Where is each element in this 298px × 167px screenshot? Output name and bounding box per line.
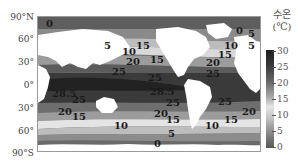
contour-label: 20 (126, 57, 140, 67)
temperature-bands (38, 17, 261, 152)
contour-label: 0 (154, 139, 161, 149)
y-axis-label-60s: 60° (0, 126, 34, 136)
legend-title-label: 수온 (268, 9, 296, 21)
y-axis-label-equator: 0° (0, 80, 34, 90)
legend-tickmark (272, 147, 276, 148)
legend-tick-25: 25 (277, 63, 288, 72)
legend-tick-5: 5 (277, 127, 283, 136)
legend-tickmark (272, 99, 276, 100)
contour-label: 5 (248, 29, 255, 39)
contour-label: 25 (166, 98, 180, 108)
contour-label: 25 (112, 67, 126, 77)
legend-tick-15: 15 (277, 95, 288, 104)
contour-label: 25 (148, 73, 162, 83)
contour-label: 5 (248, 41, 255, 51)
contour-label: 25 (218, 97, 232, 107)
legend-tickmark (272, 131, 276, 132)
contour-label: 15 (72, 112, 86, 122)
contour-label: 15 (166, 115, 180, 125)
contour-label: 5 (104, 41, 111, 51)
contour-label: 20 (206, 58, 220, 68)
sst-map: 0 5 10 15 20 25 15 25 0 5 10 5 15 20 25 … (37, 16, 261, 152)
contour-label: 0 (236, 26, 243, 36)
contour-label: 28.5 (150, 87, 174, 97)
contour-label: 15 (224, 115, 238, 125)
legend-tick-0: 0 (277, 143, 283, 152)
y-axis-label-30n: 30° (0, 57, 34, 67)
contour-label: 5 (168, 129, 175, 139)
y-axis-label-90s: 90°S (0, 148, 34, 158)
contour-label: 15 (218, 50, 232, 60)
legend-tick-30: 30 (277, 47, 288, 56)
contour-label: 15 (136, 41, 150, 51)
legend-tick-20: 20 (277, 79, 288, 88)
contour-label: 25 (72, 95, 86, 105)
y-axis-label-60n: 60° (0, 34, 34, 44)
legend-tickmark (272, 115, 276, 116)
legend-tick-10: 10 (277, 111, 288, 120)
y-axis-label-30s: 30° (0, 103, 34, 113)
contour-label: 20 (58, 107, 72, 117)
legend-title: 수온 (℃) (268, 9, 296, 33)
contour-label: 15 (150, 55, 164, 65)
contour-label: 20 (242, 107, 256, 117)
contour-label: 25 (206, 69, 220, 79)
contour-label: 10 (114, 121, 128, 131)
legend-tickmark (272, 83, 276, 84)
legend-tickmark (272, 51, 276, 52)
legend-title-unit: (℃) (268, 21, 296, 33)
y-axis-label-90n: 90°N (0, 12, 34, 22)
contour-label: 0 (46, 19, 53, 29)
legend-tickmark (272, 67, 276, 68)
contour-label: 10 (205, 121, 219, 131)
